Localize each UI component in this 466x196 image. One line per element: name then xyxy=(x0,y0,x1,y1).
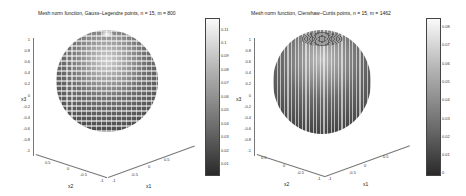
x1-axis-label: x1 xyxy=(146,183,151,189)
sphere-surface xyxy=(56,30,158,132)
plot-title: Mesh norm function, Gauss–Legendre point… xyxy=(38,10,176,16)
gauss-legendre-plot: Mesh norm function, Gauss–Legendre point… xyxy=(0,0,233,196)
x2-axis xyxy=(36,154,108,178)
pole-highlight xyxy=(101,31,113,37)
z-axis-label: x3 xyxy=(21,96,26,102)
plot-title: Mesh norm function, Clenshaw–Curtis poin… xyxy=(251,10,391,16)
x2-axis-label: x2 xyxy=(68,183,73,189)
pole-rings xyxy=(301,32,343,46)
x1-axis xyxy=(108,146,195,178)
z-axis xyxy=(254,38,255,156)
z-axis xyxy=(33,38,34,156)
x2-axis xyxy=(257,154,326,177)
clenshaw-curtis-plot: Mesh norm function, Clenshaw–Curtis poin… xyxy=(233,0,466,196)
x2-axis-label: x2 xyxy=(284,181,289,187)
x1-axis-label: x1 xyxy=(363,181,368,187)
z-axis-label: x3 xyxy=(236,96,241,102)
colorbar xyxy=(205,18,220,176)
x1-axis xyxy=(325,145,410,177)
colorbar xyxy=(426,18,441,176)
